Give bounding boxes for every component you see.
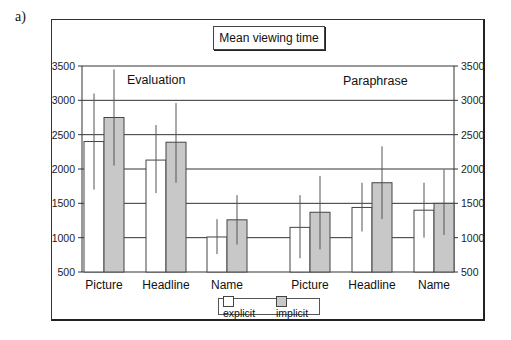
- y-tick-left: 2500: [52, 129, 76, 141]
- legend-item-implicit: implicit: [276, 294, 319, 319]
- y-tick-left: 3000: [52, 94, 76, 106]
- y-tick-left: 500: [57, 266, 75, 278]
- legend: explicit implicit: [218, 298, 320, 315]
- y-tick-left: 3500: [52, 60, 76, 72]
- y-tick-right: 3000: [461, 94, 485, 106]
- y-tick-left: 1000: [52, 232, 76, 244]
- y-tick-right: 1500: [461, 197, 485, 209]
- x-category-label: Headline: [142, 278, 190, 292]
- x-category-label: Picture: [85, 278, 123, 292]
- y-tick-right: 2000: [461, 163, 485, 175]
- x-category-label: Headline: [348, 278, 396, 292]
- y-tick-right: 2500: [461, 129, 485, 141]
- group-label-paraphrase: Paraphrase: [343, 74, 408, 88]
- bar-chart-plot: 5005001000100015001500200020002500250030…: [0, 0, 511, 340]
- y-tick-left: 2000: [52, 163, 76, 175]
- y-tick-right: 500: [461, 266, 479, 278]
- explicit-swatch: [223, 296, 234, 307]
- x-category-label: Picture: [291, 278, 329, 292]
- implicit-swatch: [276, 296, 287, 307]
- y-tick-left: 1500: [52, 197, 76, 209]
- legend-item-explicit: explicit: [223, 294, 266, 319]
- group-label-evaluation: Evaluation: [127, 73, 185, 87]
- x-category-label: Name: [211, 278, 243, 292]
- x-category-label: Name: [418, 278, 450, 292]
- y-tick-right: 1000: [461, 232, 485, 244]
- y-tick-right: 3500: [461, 60, 485, 72]
